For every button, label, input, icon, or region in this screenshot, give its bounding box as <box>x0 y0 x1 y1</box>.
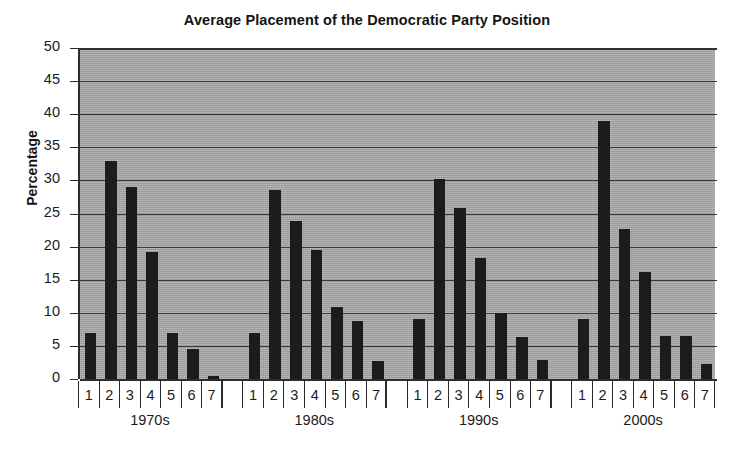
bar-2000s-4 <box>639 272 651 379</box>
y-tick-mark-45 <box>70 81 78 82</box>
category-cell-1970s-5: 5 <box>160 381 181 408</box>
category-cell-1980s-1: 1 <box>242 381 263 408</box>
category-gap-cell <box>222 381 243 408</box>
bar-1970s-4 <box>146 252 158 379</box>
category-cell-1990s-5: 5 <box>489 381 510 408</box>
bar-2000s-1 <box>578 319 590 379</box>
y-tick-mark-0 <box>70 379 78 380</box>
y-tick-label-20: 20 <box>0 237 60 253</box>
gridline-25 <box>80 214 717 215</box>
category-cell-1980s-5: 5 <box>325 381 346 408</box>
category-cell-1980s-7: 7 <box>366 381 387 408</box>
gridline-30 <box>80 180 717 181</box>
y-tick-label-15: 15 <box>0 270 60 286</box>
bar-1990s-5 <box>495 313 507 379</box>
category-cell-1990s-7: 7 <box>530 381 551 408</box>
y-tick-label-0: 0 <box>0 369 60 385</box>
bar-2000s-7 <box>701 364 713 379</box>
bar-2000s-6 <box>680 336 692 379</box>
bar-1980s-5 <box>331 307 343 379</box>
y-tick-mark-35 <box>70 147 78 148</box>
bar-1990s-2 <box>434 179 446 379</box>
category-cell-2000s-1: 1 <box>571 381 592 408</box>
y-tick-label-50: 50 <box>0 38 60 54</box>
bar-1970s-5 <box>167 333 179 379</box>
bar-1980s-7 <box>372 361 384 379</box>
category-cell-1980s-3: 3 <box>283 381 304 408</box>
y-tick-mark-5 <box>70 346 78 347</box>
category-cell-1970s-4: 4 <box>140 381 161 408</box>
gridline-45 <box>80 81 717 82</box>
gridline-35 <box>80 147 717 148</box>
bar-1990s-6 <box>516 337 528 379</box>
y-tick-label-25: 25 <box>0 204 60 220</box>
bar-1990s-7 <box>537 360 549 379</box>
bar-1980s-1 <box>249 333 261 379</box>
category-tick-row: 1234567123456712345671234567 <box>78 381 715 408</box>
category-cell-1970s-3: 3 <box>119 381 140 408</box>
y-tick-label-40: 40 <box>0 104 60 120</box>
bar-1970s-3 <box>126 187 138 379</box>
y-tick-mark-30 <box>70 180 78 181</box>
category-cell-1970s-2: 2 <box>99 381 120 408</box>
category-cell-1990s-4: 4 <box>468 381 489 408</box>
category-gap-cell <box>386 381 407 408</box>
bar-1970s-2 <box>105 161 117 379</box>
bar-1990s-4 <box>475 258 487 379</box>
bar-1990s-3 <box>454 208 466 379</box>
decade-label-2000s: 2000s <box>583 412 703 428</box>
y-tick-mark-40 <box>70 114 78 115</box>
category-gap-cell <box>551 381 572 408</box>
category-cell-1990s-3: 3 <box>448 381 469 408</box>
plot-area <box>78 48 715 379</box>
category-cell-1970s-6: 6 <box>181 381 202 408</box>
chart-container: Average Placement of the Democratic Part… <box>0 0 734 453</box>
decade-label-1990s: 1990s <box>419 412 539 428</box>
category-cell-2000s-6: 6 <box>674 381 695 408</box>
y-tick-mark-20 <box>70 247 78 248</box>
y-tick-label-35: 35 <box>0 137 60 153</box>
category-cell-1980s-6: 6 <box>345 381 366 408</box>
category-cell-1990s-2: 2 <box>427 381 448 408</box>
y-tick-label-10: 10 <box>0 303 60 319</box>
category-cell-2000s-3: 3 <box>612 381 633 408</box>
bar-1970s-6 <box>187 349 199 379</box>
bar-2000s-5 <box>660 336 672 379</box>
gridline-40 <box>80 114 717 115</box>
bar-1980s-3 <box>290 221 302 379</box>
category-cell-1970s-7: 7 <box>201 381 222 408</box>
category-cell-1980s-4: 4 <box>304 381 325 408</box>
bar-1980s-2 <box>269 190 281 379</box>
category-cell-2000s-7: 7 <box>694 381 715 408</box>
bar-1990s-1 <box>413 319 425 379</box>
y-tick-label-30: 30 <box>0 170 60 186</box>
bar-1980s-4 <box>311 250 323 379</box>
y-tick-mark-15 <box>70 280 78 281</box>
bar-1980s-6 <box>352 321 364 379</box>
category-cell-2000s-5: 5 <box>653 381 674 408</box>
bar-2000s-3 <box>619 229 631 379</box>
y-tick-mark-50 <box>70 48 78 49</box>
category-cell-1990s-6: 6 <box>510 381 531 408</box>
gridline-50 <box>80 48 717 50</box>
bar-2000s-2 <box>598 121 610 379</box>
bar-1970s-1 <box>85 333 97 379</box>
decade-label-1970s: 1970s <box>90 412 210 428</box>
decade-label-1980s: 1980s <box>254 412 374 428</box>
category-cell-2000s-2: 2 <box>592 381 613 408</box>
category-cell-2000s-4: 4 <box>633 381 654 408</box>
category-cell-1990s-1: 1 <box>407 381 428 408</box>
category-cell-1970s-1: 1 <box>78 381 99 408</box>
chart-title: Average Placement of the Democratic Part… <box>0 12 734 28</box>
y-tick-label-5: 5 <box>0 336 60 352</box>
y-tick-mark-25 <box>70 214 78 215</box>
category-cell-1980s-2: 2 <box>263 381 284 408</box>
y-tick-label-45: 45 <box>0 71 60 87</box>
y-tick-mark-10 <box>70 313 78 314</box>
